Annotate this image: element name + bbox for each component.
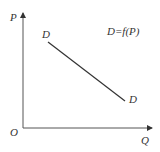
equation-label: D=f(P) [106,25,140,38]
origin-label: O [10,126,18,138]
curve-end-label: D [128,93,137,105]
p-axis-label: P [9,11,17,23]
q-axis-label: Q [141,134,149,146]
demand-line [48,42,125,101]
demand-curve-diagram: P Q O D D D=f(P) [0,0,160,152]
curve-start-label: D [41,28,50,40]
